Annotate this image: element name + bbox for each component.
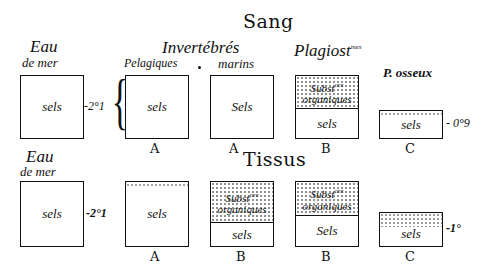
salts-segment: sels [211, 223, 273, 246]
tissue-sea-water-box: sels [20, 181, 84, 247]
organic-substances-segment: Substces organiques [296, 76, 358, 109]
tissue-sea-water-freezing-value: -2°1 [86, 206, 107, 221]
tissue-c-box: sels [379, 212, 443, 247]
blood-title: Sang [243, 10, 294, 32]
tissue-b2-box: Substces organiques Sels [295, 181, 359, 247]
salts-segment: sels [380, 221, 442, 246]
marine-heading: marins [218, 56, 254, 72]
tissue-b2-letter: B [321, 249, 331, 264]
sea-water-subheading: de mer [22, 55, 58, 71]
blood-bony-fish-box: sels [379, 110, 443, 139]
invertebrates-heading: Invertébrés [162, 38, 239, 58]
bony-fish-freezing-value: - 0°9 [446, 116, 470, 131]
salts-segment: sels [380, 111, 442, 138]
salts-segment: Sels [296, 216, 358, 246]
salts-segment: sels [126, 76, 188, 138]
plagiostomes-letter: B [321, 141, 331, 156]
salts-segment: sels [21, 182, 83, 246]
tissue-title: Tissus [243, 148, 306, 170]
salts-segment: sels [296, 109, 358, 138]
organic-substances-segment: Substces organiques [211, 182, 273, 223]
organic-substances-segment: Substces organiques [296, 182, 358, 216]
tissue-a-box: sels [125, 181, 189, 247]
blood-marine-box: Sels [210, 75, 274, 139]
sea-water-heading: Eau [30, 37, 57, 57]
salts-segment: sels [126, 182, 188, 246]
salts-segment: sels [21, 76, 83, 138]
bony-fish-letter: C [405, 141, 415, 156]
plagiostomes-heading: Plagiostmes [294, 41, 362, 61]
tissue-b1-letter: B [236, 249, 246, 264]
blood-sea-water-box: sels [20, 75, 84, 139]
pelagic-letter: A [150, 141, 159, 156]
bony-fish-heading: P. osseux [383, 65, 432, 81]
tissue-sea-water-subheading: de mer [20, 164, 56, 180]
blood-pelagic-box: sels [125, 75, 189, 139]
salts-segment: Sels [211, 76, 273, 138]
blood-plagiostomes-box: Substces organiques sels [295, 75, 359, 139]
tissue-a-letter: A [150, 249, 159, 264]
tissue-c-letter: C [405, 249, 415, 264]
separator-dot [198, 66, 201, 69]
sea-water-freezing-value: -2°1 [84, 99, 105, 114]
tissue-c-freezing-value: -1° [446, 221, 461, 236]
marine-letter: A [229, 141, 238, 156]
pelagic-heading: Pelagiques [124, 56, 177, 71]
tissue-b1-box: Substces organiques sels [210, 181, 274, 247]
